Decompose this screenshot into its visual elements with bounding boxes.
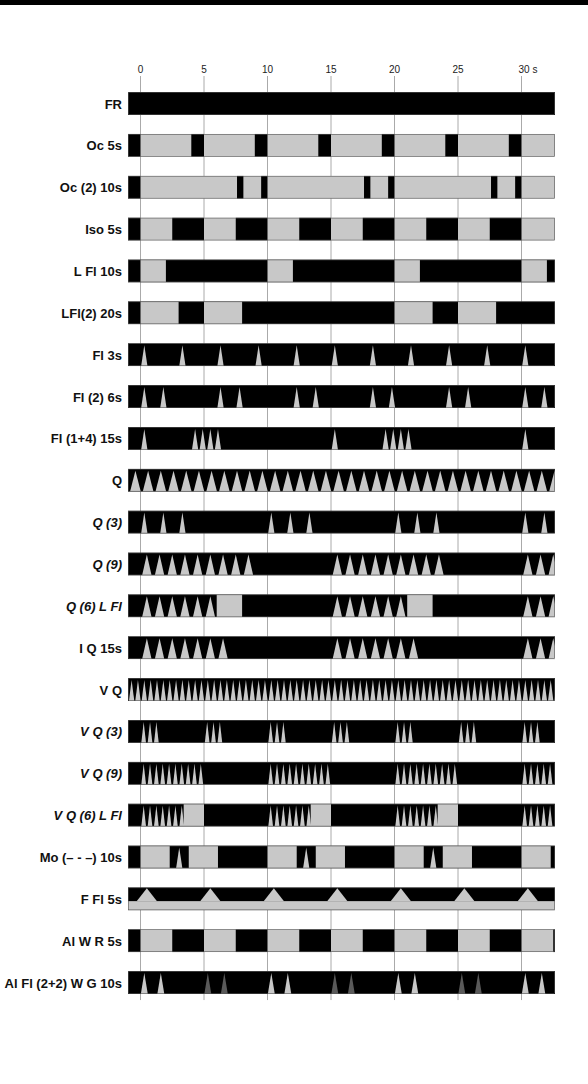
light-segment xyxy=(268,259,293,282)
light-row: Fl (1+4) 15s xyxy=(51,427,555,450)
light-row: Q (6) L Fl xyxy=(66,594,558,617)
row-label: Fl 3s xyxy=(92,348,122,363)
light-segment xyxy=(363,218,395,241)
row-label: Al W R 5s xyxy=(62,934,122,949)
light-segment xyxy=(522,259,547,282)
row-label: LFl(2) 20s xyxy=(61,306,122,321)
light-segment xyxy=(172,218,204,241)
x-tick-label: 10 xyxy=(262,64,274,75)
row-bar xyxy=(128,343,555,366)
light-segment xyxy=(438,804,458,827)
light-row: L Fl 10s xyxy=(74,259,555,282)
light-row: V Q (6) L Fl xyxy=(54,804,555,827)
light-row: Fl (2) 6s xyxy=(73,385,555,408)
light-segment xyxy=(395,845,424,868)
light-segment xyxy=(509,134,522,157)
row-label: Oc (2) 10s xyxy=(60,180,122,195)
light-segment xyxy=(141,301,179,324)
x-tick-label: 15 xyxy=(325,64,337,75)
row-label: Q (3) xyxy=(92,515,122,530)
light-segment xyxy=(128,929,141,952)
flash-marker xyxy=(562,471,573,492)
light-segment xyxy=(128,92,560,115)
x-tick-label: 5 xyxy=(201,64,207,75)
light-segment xyxy=(299,218,331,241)
row-label: Q (6) L Fl xyxy=(66,599,122,614)
light-segment xyxy=(191,134,204,157)
x-tick-label: 20 xyxy=(389,64,401,75)
row-label: Iso 5s xyxy=(85,222,122,237)
light-segment xyxy=(364,176,370,199)
light-row: V Q xyxy=(100,678,567,701)
row-bar xyxy=(128,552,555,575)
light-segment xyxy=(184,804,204,827)
row-label: V Q (9) xyxy=(80,766,122,781)
light-segment xyxy=(237,176,243,199)
row-label: Q (9) xyxy=(92,557,122,572)
light-segment xyxy=(515,176,521,199)
light-segment xyxy=(268,845,297,868)
light-row: Mo (– - –) 10s xyxy=(40,845,555,868)
row-label: I Q 15s xyxy=(79,641,122,656)
light-segment xyxy=(491,176,497,199)
flash-marker xyxy=(554,680,559,701)
light-segment xyxy=(255,134,268,157)
row-label: L Fl 10s xyxy=(74,264,122,279)
light-row: Al Fl (2+2) W G 10s xyxy=(5,971,555,994)
light-row: V Q (9) xyxy=(80,762,555,785)
light-segment xyxy=(128,218,141,241)
row-label: Al Fl (2+2) W G 10s xyxy=(5,976,122,991)
row-label: Oc 5s xyxy=(87,138,122,153)
light-segment xyxy=(490,218,522,241)
light-segment xyxy=(382,134,395,157)
light-segment xyxy=(128,134,141,157)
x-tick-label: 30 s xyxy=(519,64,538,75)
row-label: FR xyxy=(105,97,123,112)
light-row: LFl(2) 20s xyxy=(61,301,555,324)
light-segment xyxy=(141,259,166,282)
light-characteristics-chart: 051015202530 sFROc 5sOc (2) 10sIso 5sL F… xyxy=(0,0,588,1084)
row-label: V Q (6) L Fl xyxy=(54,808,123,823)
light-row: Q xyxy=(112,469,573,492)
light-row: Iso 5s xyxy=(85,218,555,241)
flash-marker xyxy=(561,680,566,701)
light-row: V Q (3) xyxy=(80,720,555,743)
row-bar xyxy=(128,511,555,534)
light-row: Fl 3s xyxy=(92,343,555,366)
row-label: Q xyxy=(112,473,122,488)
row-bar xyxy=(128,259,555,282)
row-label: F Fl 5s xyxy=(81,892,122,907)
light-segment xyxy=(299,929,331,952)
light-row: Al W R 5s xyxy=(62,929,560,952)
light-segment xyxy=(217,594,242,617)
light-segment xyxy=(363,929,395,952)
light-row: Oc 5s xyxy=(87,134,555,157)
light-segment xyxy=(236,218,268,241)
row-bar xyxy=(128,385,555,408)
light-row: Oc (2) 10s xyxy=(60,176,555,199)
light-row: I Q 15s xyxy=(79,636,558,659)
light-segment xyxy=(407,594,432,617)
light-segment xyxy=(172,929,204,952)
light-segment xyxy=(522,845,551,868)
light-segment xyxy=(426,218,458,241)
light-segment xyxy=(204,301,242,324)
light-segment xyxy=(316,845,345,868)
light-row: FR xyxy=(105,92,560,115)
light-segment xyxy=(128,176,141,199)
x-axis-ticks: 051015202530 s xyxy=(138,64,538,75)
row-bar xyxy=(128,636,555,659)
light-segment xyxy=(261,176,267,199)
x-tick-label: 25 xyxy=(452,64,464,75)
row-bar xyxy=(128,427,555,450)
row-label: Fl (2) 6s xyxy=(73,390,122,405)
light-row: Q (9) xyxy=(92,552,558,575)
light-segment xyxy=(443,845,472,868)
light-segment xyxy=(236,929,268,952)
light-segment xyxy=(458,301,496,324)
row-label: V Q xyxy=(100,683,122,698)
light-segment xyxy=(189,845,218,868)
row-bar xyxy=(128,594,555,617)
light-segment xyxy=(311,804,331,827)
row-bar xyxy=(128,176,555,199)
